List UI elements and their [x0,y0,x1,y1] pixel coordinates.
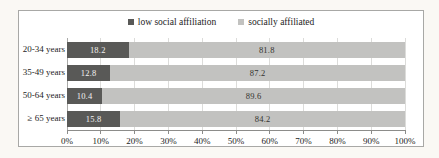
axis-ticks [67,130,405,134]
plot-area: 18.281.812.887.210.489.615.884.2 [67,38,405,131]
bar-segment: 84.2 [120,111,405,127]
x-tick-label: 100% [395,136,416,146]
x-tick-label: 50% [228,136,245,146]
axis-tick-20% [134,130,135,134]
x-tick-label: 70% [295,136,312,146]
x-tick-label: 90% [363,136,380,146]
category-axis: 20-34 years35-49 years50-64 years≥ 65 ye… [21,38,65,130]
legend-label-low-social-affiliation: low social affiliation [138,17,216,27]
x-tick-label: 80% [329,136,346,146]
x-tick-label: 0% [61,136,73,146]
axis-tick-60% [269,130,270,134]
value-axis: 0%10%20%30%40%50%60%70%80%90%100% [67,136,405,148]
axis-tick-90% [371,130,372,134]
x-tick-label: 20% [126,136,143,146]
chart-frame: low social affiliation socially affiliat… [18,10,424,147]
bar-segment: 87.2 [110,65,405,81]
axis-tick-70% [303,130,304,134]
category-label: 20-34 years [21,38,65,61]
category-label: 35-49 years [21,61,65,84]
bar-segment: 10.4 [67,88,102,104]
category-label: ≥ 65 years [21,107,65,130]
bar-row: 15.884.2 [67,111,405,127]
bar-row: 10.489.6 [67,88,405,104]
chart-legend: low social affiliation socially affiliat… [19,17,423,27]
axis-tick-0% [67,130,68,134]
category-label: 50-64 years [21,84,65,107]
x-tick-label: 40% [194,136,211,146]
x-tick-label: 60% [262,136,279,146]
bar-row: 18.281.8 [67,42,405,58]
legend-item-socially-affiliated: socially affiliated [238,17,314,27]
axis-tick-80% [337,130,338,134]
axis-tick-30% [168,130,169,134]
legend-swatch-light-icon [238,19,244,25]
axis-tick-50% [236,130,237,134]
bar-segment: 81.8 [129,42,405,58]
bar-row: 12.887.2 [67,65,405,81]
axis-tick-10% [100,130,101,134]
legend-swatch-dark-icon [128,19,134,25]
bar-segment: 15.8 [67,111,120,127]
bar-segment: 12.8 [67,65,110,81]
x-tick-label: 10% [93,136,110,146]
bar-segment: 18.2 [67,42,129,58]
legend-item-low-social-affiliation: low social affiliation [128,17,216,27]
bar-segment: 89.6 [102,88,405,104]
x-tick-label: 30% [160,136,177,146]
legend-label-socially-affiliated: socially affiliated [248,17,314,27]
axis-tick-100% [405,130,406,134]
axis-tick-40% [202,130,203,134]
